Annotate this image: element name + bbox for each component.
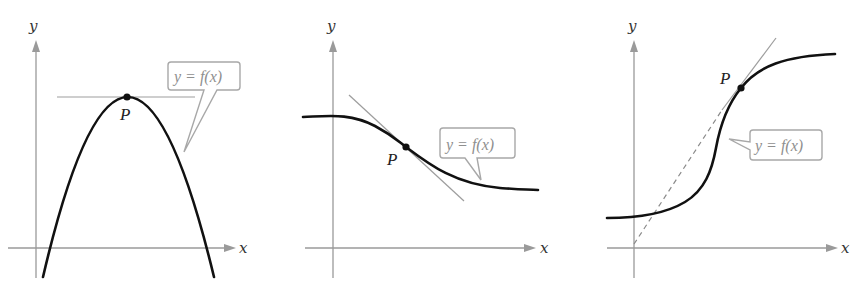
point-p bbox=[402, 143, 409, 150]
x-axis-arrow-icon bbox=[524, 244, 536, 252]
x-axis-arrow-icon bbox=[826, 244, 838, 252]
figure-canvas: x y P y = f(x) x y P y = f(x) bbox=[0, 0, 867, 300]
panel-1: x y P y = f(x) bbox=[8, 17, 248, 278]
x-axis-label: x bbox=[841, 239, 850, 257]
function-curve bbox=[43, 97, 214, 277]
callout-label: y = f(x) bbox=[753, 137, 803, 155]
callout-label: y = f(x) bbox=[172, 68, 222, 86]
y-axis-label: y bbox=[28, 17, 38, 35]
panel-3: x y P y = f(x) bbox=[607, 17, 850, 278]
point-p-label: P bbox=[719, 69, 730, 88]
point-p-label: P bbox=[119, 105, 130, 124]
x-axis-label: x bbox=[540, 239, 549, 257]
y-axis-arrow-icon bbox=[630, 40, 638, 52]
y-axis-label: y bbox=[326, 17, 336, 35]
point-p bbox=[737, 84, 744, 91]
y-axis-label: y bbox=[627, 17, 637, 35]
x-axis-label: x bbox=[239, 239, 248, 257]
panel-2: x y P y = f(x) bbox=[303, 17, 549, 278]
y-axis-arrow-icon bbox=[329, 40, 337, 52]
function-callout: y = f(x) bbox=[729, 130, 822, 160]
point-p bbox=[123, 93, 130, 100]
function-callout: y = f(x) bbox=[440, 128, 515, 180]
y-axis-arrow-icon bbox=[32, 40, 40, 52]
x-axis-arrow-icon bbox=[224, 244, 236, 252]
function-callout: y = f(x) bbox=[168, 62, 240, 152]
callout-label: y = f(x) bbox=[444, 136, 494, 154]
point-p-label: P bbox=[386, 150, 397, 169]
